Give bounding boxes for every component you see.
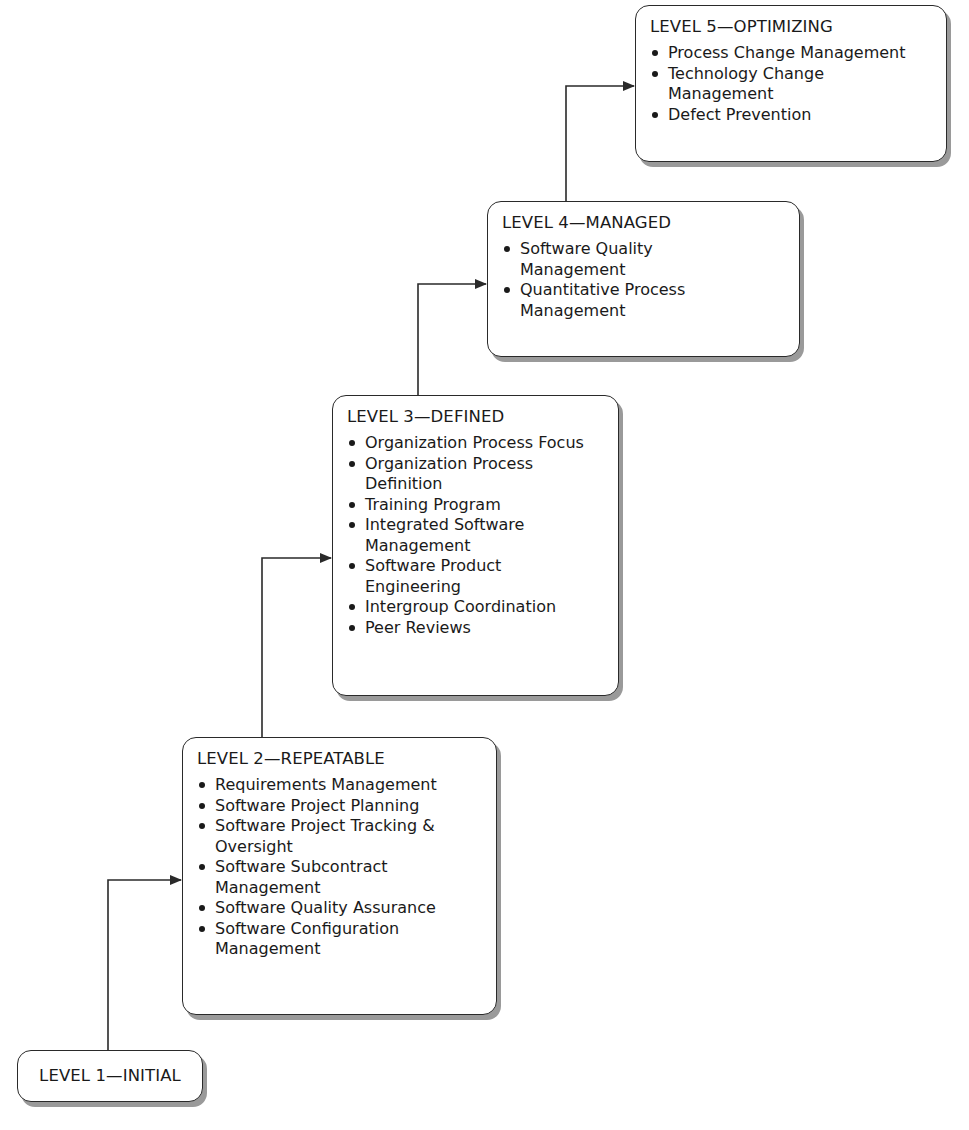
bullet-icon	[652, 71, 658, 77]
list-item: Integrated Software Management	[347, 515, 565, 556]
connector-l4-l5	[566, 86, 634, 201]
list-item: Defect Prevention	[650, 105, 936, 126]
bullet-icon	[349, 502, 355, 508]
level-2-title: LEVEL 2—REPEATABLE	[197, 748, 486, 770]
bullet-icon	[349, 440, 355, 446]
bullet-icon	[349, 522, 355, 528]
list-item: Software Quality Assurance	[197, 898, 486, 919]
bullet-icon	[504, 287, 510, 293]
bullet-icon	[199, 823, 205, 829]
list-item: Process Change Management	[650, 43, 936, 64]
list-item: Software Configuration Management	[197, 919, 455, 960]
level-5-list: Process Change Management Technology Cha…	[650, 43, 936, 125]
level-1-title: LEVEL 1—INITIAL	[39, 1065, 181, 1087]
connector-l2-l3	[262, 558, 331, 737]
level-4-box: LEVEL 4—MANAGED Software Quality Managem…	[487, 201, 800, 357]
bullet-icon	[652, 112, 658, 118]
level-4-title: LEVEL 4—MANAGED	[502, 212, 789, 234]
level-2-list: Requirements Management Software Project…	[197, 775, 486, 960]
level-5-title: LEVEL 5—OPTIMIZING	[650, 16, 936, 38]
bullet-icon	[349, 604, 355, 610]
list-item: Quantitative Process Management	[502, 280, 727, 321]
bullet-icon	[199, 926, 205, 932]
level-2-box: LEVEL 2—REPEATABLE Requirements Manageme…	[182, 737, 497, 1015]
bullet-icon	[199, 864, 205, 870]
list-item: Requirements Management	[197, 775, 486, 796]
level-1-box: LEVEL 1—INITIAL	[17, 1050, 203, 1102]
bullet-icon	[349, 461, 355, 467]
list-item: Software Project Tracking & Oversight	[197, 816, 465, 857]
list-item: Software Subcontract Management	[197, 857, 435, 898]
bullet-icon	[349, 625, 355, 631]
list-item: Technology Change Management	[650, 64, 868, 105]
list-item: Software Project Planning	[197, 796, 486, 817]
level-4-list: Software Quality Management Quantitative…	[502, 239, 727, 321]
connector-l1-l2	[108, 880, 181, 1050]
level-5-box: LEVEL 5—OPTIMIZING Process Change Manage…	[635, 5, 947, 162]
list-item: Organization Process Focus	[347, 433, 608, 454]
bullet-icon	[504, 246, 510, 252]
bullet-icon	[199, 905, 205, 911]
bullet-icon	[652, 50, 658, 56]
list-item: Organization Process Definition	[347, 454, 565, 495]
list-item: Intergroup Coordination	[347, 597, 608, 618]
bullet-icon	[199, 803, 205, 809]
list-item: Peer Reviews	[347, 618, 608, 639]
level-3-box: LEVEL 3—DEFINED Organization Process Foc…	[332, 395, 619, 696]
list-item: Training Program	[347, 495, 608, 516]
list-item: Software Product Engineering	[347, 556, 545, 597]
level-3-list: Organization Process Focus Organization …	[347, 433, 608, 638]
level-3-title: LEVEL 3—DEFINED	[347, 406, 608, 428]
bullet-icon	[349, 563, 355, 569]
list-item: Software Quality Management	[502, 239, 727, 280]
bullet-icon	[199, 782, 205, 788]
connector-l3-l4	[418, 284, 486, 395]
